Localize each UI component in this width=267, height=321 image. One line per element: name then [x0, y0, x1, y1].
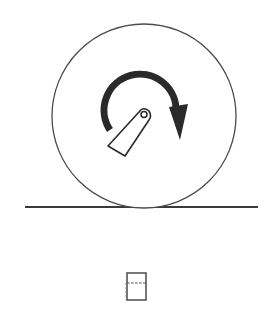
pivot-pin: [141, 112, 147, 118]
small-box-icon: [126, 273, 146, 300]
diagram-canvas: [0, 0, 267, 321]
